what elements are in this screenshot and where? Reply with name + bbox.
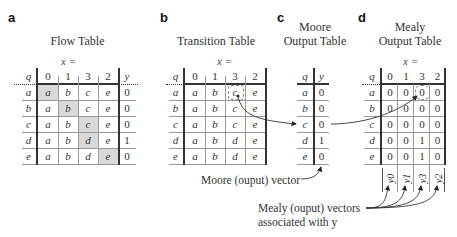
connector-arrows — [0, 0, 457, 237]
